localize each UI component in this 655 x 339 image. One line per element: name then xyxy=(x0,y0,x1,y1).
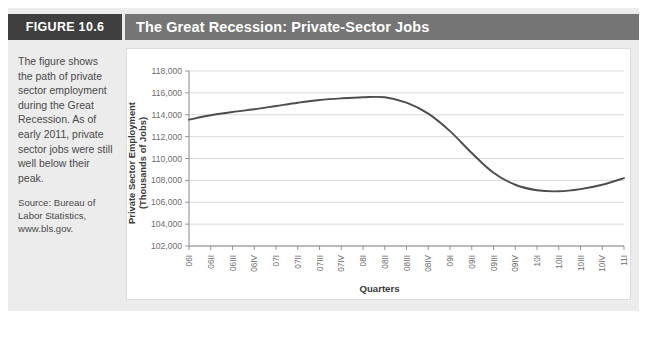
caption-column: The figure shows the path of private sec… xyxy=(18,54,114,235)
svg-text:116,000: 116,000 xyxy=(152,88,183,98)
employment-line xyxy=(189,97,624,192)
svg-text:104,000: 104,000 xyxy=(151,219,182,229)
svg-text:09II: 09II xyxy=(468,255,477,269)
svg-text:06IV: 06IV xyxy=(250,254,259,271)
svg-text:08II: 08II xyxy=(381,255,390,269)
svg-text:102,000: 102,000 xyxy=(151,241,182,251)
svg-text:10IV: 10IV xyxy=(598,254,607,271)
figure-header: FIGURE 10.6 The Great Recession: Private… xyxy=(8,14,639,40)
svg-text:07IV: 07IV xyxy=(337,254,346,271)
svg-text:110,000: 110,000 xyxy=(152,154,183,164)
svg-text:108,000: 108,000 xyxy=(151,175,182,185)
figure-title: The Great Recession: Private-Sector Jobs xyxy=(125,14,639,40)
svg-text:112,000: 112,000 xyxy=(152,132,183,142)
y-tick-labels: 102,000104,000106,000108,000110,000112,0… xyxy=(151,66,182,251)
y-tick-marks xyxy=(185,71,189,246)
line-chart-svg: 102,000104,000106,000108,000110,000112,0… xyxy=(127,49,632,301)
caption-source: Source: Bureau of Labor Statistics, www.… xyxy=(18,197,114,235)
svg-text:08IV: 08IV xyxy=(424,254,433,271)
svg-text:07I: 07I xyxy=(272,255,281,266)
svg-text:106,000: 106,000 xyxy=(151,197,182,207)
svg-text:118,000: 118,000 xyxy=(152,66,183,76)
svg-text:07II: 07II xyxy=(294,255,303,269)
x-tick-labels: 06I06II06III06IV07I07II07III07IV08I08II0… xyxy=(185,254,629,271)
svg-text:09I: 09I xyxy=(446,255,455,266)
svg-text:06III: 06III xyxy=(229,255,238,271)
svg-text:08I: 08I xyxy=(359,255,368,266)
svg-text:09IV: 09IV xyxy=(511,254,520,271)
svg-text:09III: 09III xyxy=(490,255,499,271)
gridlines xyxy=(189,71,624,246)
svg-text:11I: 11I xyxy=(620,255,629,266)
svg-text:07III: 07III xyxy=(316,255,325,271)
svg-text:06I: 06I xyxy=(185,255,194,266)
svg-text:10I: 10I xyxy=(533,255,542,266)
plot-area: 102,000104,000106,000108,000110,000112,0… xyxy=(127,49,632,301)
figure-panel: FIGURE 10.6 The Great Recession: Private… xyxy=(8,8,639,311)
caption-text: The figure shows the path of private sec… xyxy=(18,54,114,185)
svg-text:10II: 10II xyxy=(555,255,564,269)
svg-text:10III: 10III xyxy=(577,255,586,271)
chart-container: Private Sector Employment (Thousands of … xyxy=(126,48,631,300)
x-axis-title: Quarters xyxy=(127,283,632,294)
x-tick-marks xyxy=(189,246,624,250)
svg-text:06II: 06II xyxy=(207,255,216,269)
figure-number-badge: FIGURE 10.6 xyxy=(8,14,122,40)
svg-text:08III: 08III xyxy=(403,255,412,271)
svg-text:114,000: 114,000 xyxy=(152,110,183,120)
